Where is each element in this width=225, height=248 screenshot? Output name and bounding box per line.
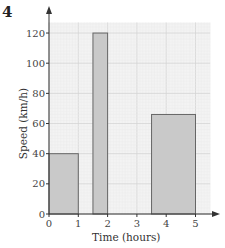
- y-tick-label: 100: [26, 58, 45, 69]
- y-axis-title: Speed (km/h): [17, 88, 29, 159]
- x-tick-label: 3: [134, 218, 140, 229]
- x-tick-label: 5: [192, 218, 198, 229]
- x-axis-title: Time (hours): [92, 231, 160, 243]
- bar-1: [49, 154, 78, 214]
- x-axis-arrow-icon: [212, 211, 220, 217]
- y-tick-label: 20: [32, 178, 45, 189]
- y-tick-label: 0: [39, 209, 45, 220]
- y-axis-arrow-icon: [46, 6, 52, 14]
- y-tick-label: 120: [26, 28, 45, 39]
- y-tick-label: 80: [32, 88, 45, 99]
- speed-time-chart: 012345020406080100120Time (hours)Speed (…: [0, 0, 225, 248]
- x-tick-label: 2: [104, 218, 110, 229]
- y-tick-label: 40: [32, 148, 45, 159]
- x-tick-label: 4: [163, 218, 169, 229]
- bar-3: [152, 114, 196, 214]
- x-tick-label: 1: [75, 218, 81, 229]
- y-tick-label: 60: [32, 118, 45, 129]
- x-tick-label: 0: [46, 218, 52, 229]
- bar-2: [93, 33, 108, 214]
